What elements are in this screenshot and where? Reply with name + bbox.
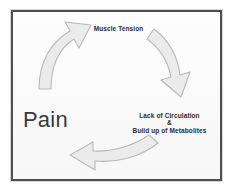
arrow-circulation-to-pain — [70, 135, 158, 170]
label-line-circulation: Lack of Circulation — [117, 112, 222, 119]
label-line-ampersand: & — [117, 119, 222, 126]
label-line-metabolites: Build up of Metabolites — [117, 127, 222, 134]
label-pain: Pain — [23, 107, 113, 132]
diagram-canvas: Muscle Tension Lack of Circulation & Bui… — [13, 12, 220, 179]
arrow-muscle-tension-to-circulation — [147, 29, 190, 97]
pain-cycle-diagram: Muscle Tension Lack of Circulation & Bui… — [0, 0, 235, 193]
label-muscle-tension: Muscle Tension — [13, 25, 224, 32]
cycle-arrows-group — [13, 12, 224, 183]
diagram-frame: Muscle Tension Lack of Circulation & Bui… — [11, 10, 222, 181]
label-lack-of-circulation: Lack of Circulation & Build up of Metabo… — [117, 112, 222, 134]
